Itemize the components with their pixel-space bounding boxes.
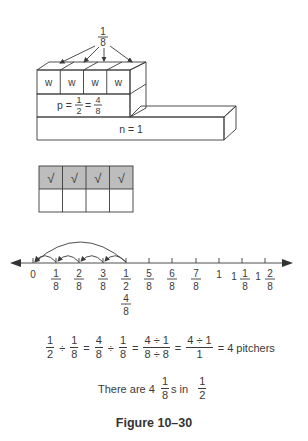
- p-row-front: [37, 94, 130, 117]
- svg-text:8: 8: [169, 281, 175, 292]
- check-icon: √: [94, 171, 102, 186]
- svg-text:1: 1: [242, 268, 248, 279]
- check-icon: √: [47, 171, 55, 186]
- svg-text:2: 2: [267, 268, 273, 279]
- svg-text:4: 4: [123, 293, 129, 304]
- tick-label-0: 0: [30, 269, 36, 280]
- big-jump-arc: [35, 242, 126, 262]
- figure-canvas: 1 8 n = 1 w w: [0, 0, 308, 441]
- svg-text:8: 8: [193, 281, 199, 292]
- svg-text:3: 3: [100, 268, 106, 279]
- jump-arc-3: [81, 256, 103, 262]
- w-cell-4: w: [114, 77, 123, 88]
- svg-text:1: 1: [255, 271, 261, 282]
- svg-text:7: 7: [193, 268, 199, 279]
- n-label: n = 1: [119, 123, 143, 135]
- svg-text:8: 8: [242, 281, 248, 292]
- check-icon: √: [71, 171, 79, 186]
- p-label-prefix: p =: [57, 99, 72, 111]
- equation-result: 4 pitchers: [227, 342, 275, 354]
- svg-text:8: 8: [267, 281, 273, 292]
- svg-text:1: 1: [53, 268, 59, 279]
- block-model: 1 8 n = 1 w w: [37, 26, 236, 140]
- w-cell-2: w: [67, 77, 76, 88]
- svg-text:=: =: [85, 99, 91, 111]
- svg-text:1: 1: [231, 271, 237, 282]
- top-fraction-den: 8: [100, 37, 106, 48]
- jump-arc-2: [58, 256, 79, 262]
- svg-text:6: 6: [169, 268, 175, 279]
- svg-text:2: 2: [123, 281, 129, 292]
- n-slab-side: [224, 106, 236, 140]
- conclusion-sentence: There are 4 18 s in 12: [98, 376, 208, 401]
- left-arrow-icon: [10, 259, 21, 267]
- top-fraction-num: 1: [100, 26, 106, 37]
- w-cell-3: w: [90, 77, 99, 88]
- svg-text:8: 8: [146, 281, 152, 292]
- svg-text:2: 2: [76, 268, 82, 279]
- svg-text:1: 1: [123, 268, 129, 279]
- tick-label-1: 1: [216, 269, 222, 280]
- arrow-to-w2: [84, 47, 99, 62]
- svg-text:5: 5: [146, 268, 152, 279]
- svg-text:8: 8: [123, 306, 129, 317]
- number-line: 0 1 8 2 8 3 8 1 2 4 8 5 8 6 8 7 8 1 1 1 …: [10, 242, 293, 317]
- svg-text:8: 8: [100, 281, 106, 292]
- figure-caption: Figure 10–30: [0, 416, 308, 430]
- division-equation: 12 ÷ 18 = 48 ÷ 18 = 4 ÷ 18 ÷ 8 = 4 ÷ 11 …: [44, 335, 275, 360]
- svg-text:4: 4: [95, 95, 100, 105]
- arrow-to-w4: [110, 46, 132, 62]
- fraction-grid: √ √ √ √: [39, 166, 133, 212]
- jump-arc-4: [105, 256, 126, 262]
- svg-text:8: 8: [53, 281, 59, 292]
- right-arrow-icon: [282, 259, 293, 267]
- svg-text:1: 1: [76, 95, 81, 105]
- arrow-to-w1: [60, 46, 95, 63]
- svg-text:2: 2: [76, 106, 81, 116]
- svg-text:8: 8: [95, 106, 100, 116]
- w-cell-1: w: [44, 77, 53, 88]
- svg-text:8: 8: [76, 281, 82, 292]
- check-icon: √: [118, 171, 126, 186]
